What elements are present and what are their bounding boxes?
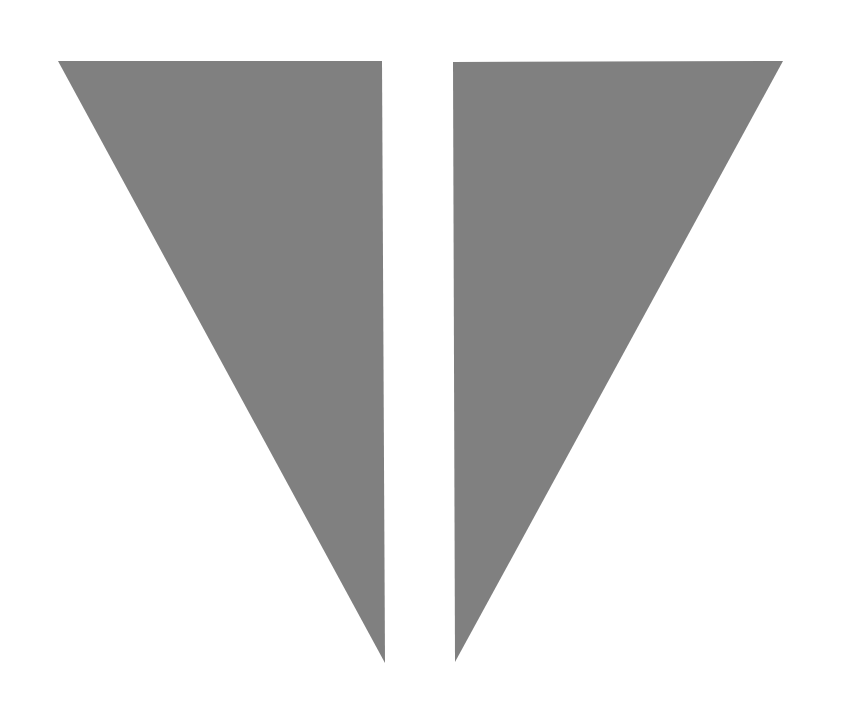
triangles-figure bbox=[0, 0, 842, 701]
image-canvas bbox=[0, 0, 842, 701]
